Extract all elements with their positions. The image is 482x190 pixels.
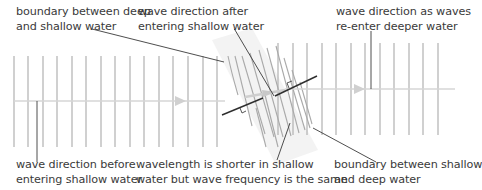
arrow-head-icon bbox=[354, 84, 365, 94]
label-line: wave direction before bbox=[16, 157, 142, 172]
label-line: entering shallow water bbox=[138, 19, 264, 34]
label-wave-after-shallow: wave direction after entering shallow wa… bbox=[138, 4, 264, 34]
arrow-head-icon bbox=[175, 96, 186, 106]
label-wavelength-note: wavelength is shorter in shallow water b… bbox=[136, 157, 348, 187]
label-boundary-deep-shallow: boundary between deep and shallow water bbox=[16, 4, 151, 34]
label-line: and deep water bbox=[334, 172, 482, 187]
leader-lines bbox=[37, 29, 376, 162]
wave-direction-arrows bbox=[14, 84, 455, 106]
label-boundary-shallow-deep: boundary between shallow and deep water bbox=[334, 157, 482, 187]
label-line: wave direction as waves bbox=[336, 4, 471, 19]
label-line: entering shallow water bbox=[16, 172, 142, 187]
label-line: re-enter deeper water bbox=[336, 19, 471, 34]
label-line: boundary between deep bbox=[16, 4, 151, 19]
label-wave-reenter-deep: wave direction as waves re-enter deeper … bbox=[336, 4, 471, 34]
label-line: and shallow water bbox=[16, 19, 151, 34]
label-wave-before-shallow: wave direction before entering shallow w… bbox=[16, 157, 142, 187]
label-line: water but wave frequency is the same bbox=[136, 172, 348, 187]
label-line: wavelength is shorter in shallow bbox=[136, 157, 348, 172]
label-line: wave direction after bbox=[138, 4, 264, 19]
label-line: boundary between shallow bbox=[334, 157, 482, 172]
